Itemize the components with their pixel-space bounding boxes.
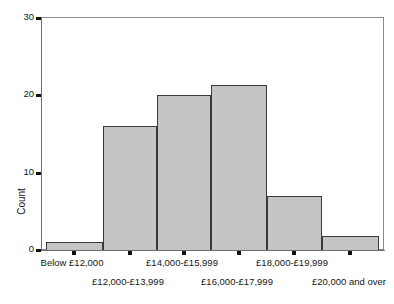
bar-16000-17999 (211, 85, 267, 251)
y-tick-label-0: 0 (0, 244, 34, 254)
y-tick-0 (36, 249, 41, 252)
y-tick-10 (36, 172, 41, 175)
histogram-figure: 30 20 10 0 Count Below £12,000 £12,000-£… (0, 0, 394, 304)
x-axis-line (41, 250, 385, 251)
x-tick-3 (182, 251, 186, 255)
y-tick-20 (36, 94, 41, 97)
y-axis-title: Count (16, 172, 27, 232)
x-tick-label-18000-19999: £18,000-£19,999 (230, 257, 354, 268)
bar-12000-13999 (103, 126, 157, 251)
x-tick-2 (128, 251, 132, 255)
x-tick-label-12000-13999: £12,000-£13,999 (66, 276, 190, 287)
bar-20000-and-over (322, 236, 379, 251)
x-tick-label-16000-17999: £16,000-£17,999 (175, 276, 299, 287)
x-tick-label-20000-and-over: £20,000 and over (285, 276, 394, 287)
x-tick-6 (348, 251, 352, 255)
y-tick-label-30: 30 (0, 12, 34, 22)
x-tick-5 (292, 251, 296, 255)
y-axis-line (41, 17, 42, 251)
bar-14000-15999 (157, 95, 211, 251)
bar-18000-19999 (267, 196, 322, 251)
y-tick-label-20: 20 (0, 89, 34, 99)
x-tick-label-14000-15999: £14,000-£15,999 (120, 257, 244, 268)
x-tick-1 (72, 251, 76, 255)
x-tick-label-below-12000: Below £12,000 (16, 257, 128, 268)
y-tick-30 (36, 17, 41, 20)
x-tick-4 (237, 251, 241, 255)
